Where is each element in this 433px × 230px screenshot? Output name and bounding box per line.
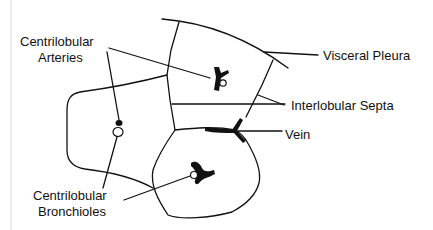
bronchiole-icon-upper [220,80,226,86]
label-centrilobular-arteries-2: Arteries [38,50,83,65]
label-interlobular-septa: Interlobular Septa [291,98,394,113]
artery-icon-upper [214,67,229,91]
lobule-diagram: Centrilobular Arteries Visceral Pleura I… [0,0,433,230]
bronchiole-icon-lower [191,172,198,179]
label-centrilobular-bronchioles-2: Bronchioles [38,204,106,219]
bronchioles-leader-left [103,137,117,188]
label-visceral-pleura: Visceral Pleura [323,48,411,63]
bronchiole-icon-left [113,128,123,137]
label-vein: Vein [285,127,310,142]
visceral-pleura-curve [162,19,288,68]
arteries-leader-upper [109,48,210,78]
label-centrilobular-arteries-1: Centrilobular [20,34,94,49]
upper-lobule-left-septum [167,22,179,130]
artery-icon-left [116,120,123,126]
upper-lobule-right-septum [246,60,273,117]
label-centrilobular-bronchioles-1: Centrilobular [33,188,107,203]
pleura-leader-line [264,52,318,55]
